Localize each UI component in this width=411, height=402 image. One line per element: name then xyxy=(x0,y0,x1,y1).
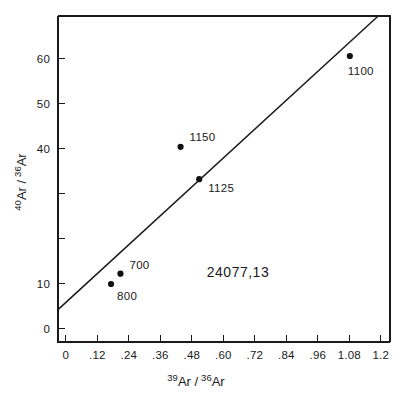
x-tick-label-4: .48 xyxy=(184,349,201,361)
plot-frame xyxy=(58,16,390,342)
data-point-1150[interactable] xyxy=(177,144,183,150)
x-tick-label-6: .72 xyxy=(247,349,264,361)
y-axis-superscript-1: 40 xyxy=(12,200,23,211)
x-tick-label-9: 1.08 xyxy=(338,349,361,361)
x-axis-title: 39Ar /36Ar xyxy=(167,372,225,389)
x-tick-label-10: 1.2 xyxy=(373,349,390,361)
svg-text:40Ar /36Ar: 40Ar /36Ar xyxy=(12,153,29,211)
y-tick-label-0: 0 xyxy=(43,323,50,335)
axis-frame-lines-top-right xyxy=(58,16,390,342)
y-tick-label-4: 40 xyxy=(37,143,50,155)
x-tick-label-3: .36 xyxy=(152,349,169,361)
sample-id-annotation: 24077,13 xyxy=(207,264,269,280)
y-axis-base-2: Ar xyxy=(14,153,29,167)
data-point-700[interactable] xyxy=(117,271,123,277)
x-tick-label-8: .96 xyxy=(310,349,327,361)
y-axis-base-1: Ar / xyxy=(14,180,29,201)
x-axis-base-1: Ar / xyxy=(178,374,199,389)
x-axis-ticks xyxy=(66,335,381,342)
isochron-figure: 0.12.24.36.48.60.72.84.961.081.2 0104050… xyxy=(0,0,411,402)
y-tick-label-6: 60 xyxy=(37,53,50,65)
data-point-1125[interactable] xyxy=(196,176,202,182)
data-point-label-1125: 1125 xyxy=(208,182,234,194)
y-tick-label-1: 10 xyxy=(37,278,50,290)
x-axis-base-2: Ar xyxy=(212,374,226,389)
x-axis-superscript-1: 39 xyxy=(167,372,178,383)
data-point-label-1150: 1150 xyxy=(190,131,216,143)
y-axis-superscript-2: 36 xyxy=(12,166,23,177)
isochron-plot: 0.12.24.36.48.60.72.84.961.081.2 0104050… xyxy=(0,0,411,402)
data-point-800[interactable] xyxy=(108,281,114,287)
y-axis-ticks xyxy=(58,59,65,329)
y-axis-tick-labels: 010405060 xyxy=(37,53,50,335)
data-point-label-1100: 1100 xyxy=(348,65,374,77)
x-axis-superscript-2: 36 xyxy=(201,372,212,383)
data-point-1100[interactable] xyxy=(347,53,353,59)
svg-text:39Ar /36Ar: 39Ar /36Ar xyxy=(167,372,225,389)
y-axis-title: 40Ar /36Ar xyxy=(12,153,29,211)
data-point-label-700: 700 xyxy=(129,259,149,271)
x-tick-label-0: 0 xyxy=(63,349,70,361)
x-tick-label-7: .84 xyxy=(278,349,295,361)
data-point-label-800: 800 xyxy=(117,290,137,302)
x-tick-label-2: .24 xyxy=(121,349,138,361)
x-tick-label-1: .12 xyxy=(89,349,106,361)
x-axis-tick-labels: 0.12.24.36.48.60.72.84.961.081.2 xyxy=(63,349,390,361)
x-tick-label-5: .60 xyxy=(215,349,232,361)
axis-frame-lines xyxy=(58,16,390,342)
y-tick-label-5: 50 xyxy=(37,98,50,110)
